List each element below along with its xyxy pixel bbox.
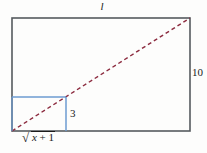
inner-base-label: √ x + 1 bbox=[22, 131, 55, 144]
length-label: l bbox=[92, 1, 112, 12]
radical-sign-icon: √ bbox=[22, 131, 29, 144]
radical-expression: √ x + 1 bbox=[22, 131, 55, 144]
height-label: 10 bbox=[192, 67, 203, 78]
diagonal-dashed-line bbox=[12, 18, 190, 131]
inner-height-label: 3 bbox=[70, 108, 76, 119]
radicand-variable: x bbox=[32, 131, 37, 143]
radicand: x + 1 bbox=[31, 131, 55, 143]
geometry-diagram: l 10 3 √ x + 1 bbox=[0, 0, 207, 153]
radicand-operator: + 1 bbox=[40, 131, 54, 143]
